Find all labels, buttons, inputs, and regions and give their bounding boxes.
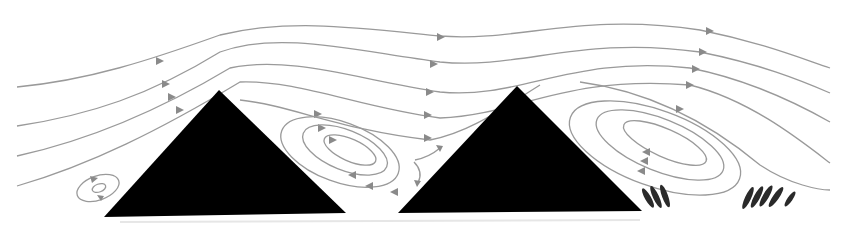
arrow-icon <box>706 27 714 35</box>
eddy-upstream-small <box>73 169 123 207</box>
arrow-icon <box>686 81 694 89</box>
arrow-icon <box>414 180 421 187</box>
arrow-icon <box>365 182 373 190</box>
flow-diagram <box>0 0 847 229</box>
streamlines <box>17 24 830 190</box>
streamline-4 <box>17 82 830 186</box>
streamline-2 <box>17 43 830 126</box>
arrow-icon <box>692 65 700 73</box>
arrow-icon <box>156 57 164 65</box>
arrow-icon <box>176 106 184 114</box>
arrow-icon <box>637 167 645 175</box>
fish-group-near <box>640 184 672 209</box>
dune-left <box>104 90 346 217</box>
arrow-icon <box>699 48 707 56</box>
fish-icon <box>783 190 797 208</box>
arrow-icon <box>426 88 434 96</box>
fish-group-far <box>740 184 797 210</box>
arrow-icon <box>424 134 432 142</box>
arrow-icon <box>424 111 432 119</box>
arrow-icon <box>90 176 98 183</box>
arrow-icon <box>390 188 398 196</box>
dune-right <box>398 86 642 213</box>
arrow-icon <box>640 157 648 165</box>
bed-line <box>120 220 640 222</box>
arrow-icon <box>329 136 337 144</box>
arrow-icon <box>437 33 445 41</box>
